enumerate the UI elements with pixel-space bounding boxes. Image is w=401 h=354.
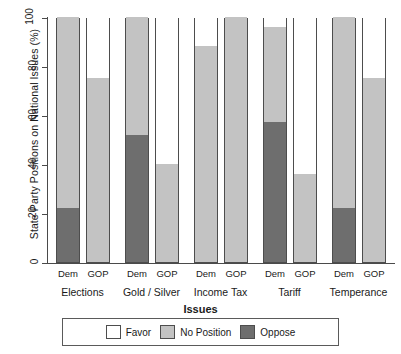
x-sub-label-gop: GOP (147, 268, 187, 279)
bar-segment-no-position (225, 17, 247, 262)
bar-segment-no-position (87, 78, 109, 262)
x-category-label: Temperance (304, 286, 401, 298)
stacked-bar (293, 18, 317, 263)
bar-segment-favor (195, 17, 217, 46)
bar-segment-no-position (195, 46, 217, 262)
legend-item: No Position (160, 325, 231, 339)
y-tick-label: 80 (0, 60, 38, 71)
bar-segment-oppose (57, 208, 79, 262)
legend-label: No Position (180, 327, 231, 338)
stacked-bar (362, 18, 386, 263)
bar-segment-oppose (126, 135, 148, 262)
y-tick-label: 40 (0, 158, 38, 169)
bar-segment-no-position (294, 174, 316, 262)
bar-segment-no-position (126, 17, 148, 135)
bar-segment-favor (294, 17, 316, 174)
bar-segment-favor (156, 17, 178, 164)
legend-label: Favor (126, 327, 152, 338)
y-tick-label: 100 (0, 11, 38, 22)
y-tick-label: 20 (0, 207, 38, 218)
legend-swatch (240, 325, 255, 339)
y-tick-label: 0 (0, 256, 38, 267)
stacked-bar (224, 18, 248, 263)
x-sub-label-gop: GOP (216, 268, 256, 279)
stacked-bar (56, 18, 80, 263)
x-axis-title: Issues (0, 303, 401, 315)
legend-item: Oppose (240, 325, 295, 339)
bar-segment-no-position (156, 164, 178, 262)
stacked-bar (86, 18, 110, 263)
bar-segment-favor (363, 17, 385, 78)
bar-segment-no-position (264, 27, 286, 123)
legend-label: Oppose (260, 327, 295, 338)
chart-legend: FavorNo PositionOppose (62, 318, 339, 346)
x-sub-label-gop: GOP (354, 268, 394, 279)
stacked-bar (155, 18, 179, 263)
bar-segment-no-position (333, 17, 355, 208)
plot-area (48, 18, 393, 263)
x-sub-label-gop: GOP (285, 268, 325, 279)
y-axis-title: State Party Positions on National Issues… (28, 4, 40, 264)
x-sub-label-gop: GOP (78, 268, 118, 279)
bar-segment-no-position (363, 78, 385, 262)
y-tick-mark (42, 263, 48, 264)
legend-swatch (106, 325, 121, 339)
legend-item: Favor (106, 325, 152, 339)
y-tick-label: 60 (0, 109, 38, 120)
bar-segment-oppose (333, 208, 355, 262)
stacked-bar (125, 18, 149, 263)
stacked-bar (332, 18, 356, 263)
stacked-bar (194, 18, 218, 263)
legend-swatch (160, 325, 175, 339)
bar-segment-favor (264, 17, 286, 27)
stacked-bar-chart: State Party Positions on National Issues… (0, 0, 401, 354)
stacked-bar (263, 18, 287, 263)
bar-segment-no-position (57, 17, 79, 208)
x-axis-line (47, 263, 395, 264)
bar-segment-favor (87, 17, 109, 78)
bar-segment-oppose (264, 122, 286, 262)
